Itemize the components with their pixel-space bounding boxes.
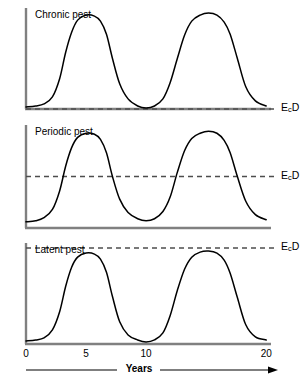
x-axis-title: Years [120, 363, 158, 374]
x-axis-arrow [0, 0, 304, 381]
pest-population-figure: PopulationChronic pestEcDPopulationPerio… [0, 0, 304, 381]
arrow-head-icon [268, 366, 278, 373]
